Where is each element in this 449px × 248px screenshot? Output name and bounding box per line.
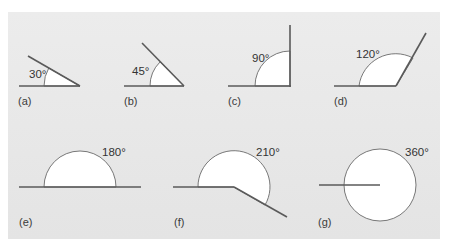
panel-label: (d) [334,95,347,107]
angle-panel-g: 360° (g) [318,146,429,228]
angle-value: 360° [405,146,429,158]
panel-label: (b) [124,95,137,107]
angle-value: 90° [252,52,269,64]
angle-value: 45° [132,65,149,77]
angle-panel-d: 120° (d) [334,33,426,107]
angle-value: 210° [256,146,280,158]
panel-label: (e) [19,216,32,228]
angle-value: 120° [356,48,380,60]
panel-label: (g) [318,216,331,228]
angle-panel-a: 30° (a) [18,56,80,107]
panel-label: (a) [18,95,31,107]
panel-label: (c) [228,95,241,107]
angle-panel-e: 180° (e) [19,146,141,228]
angle-panel-f: 210° (f) [173,146,287,228]
angle-value: 30° [29,68,46,80]
angle-panel-c: 90° (c) [228,25,291,107]
panel-label: (f) [174,216,184,228]
angle-arc-45 [150,62,184,86]
angle-value: 180° [102,146,126,158]
angle-arc-210 [198,151,270,205]
angle-panel-b: 45° (b) [124,43,184,107]
angles-diagram: 30° (a) 45° (b) 90° (c) 120° (d) 180° (e… [0,0,449,248]
